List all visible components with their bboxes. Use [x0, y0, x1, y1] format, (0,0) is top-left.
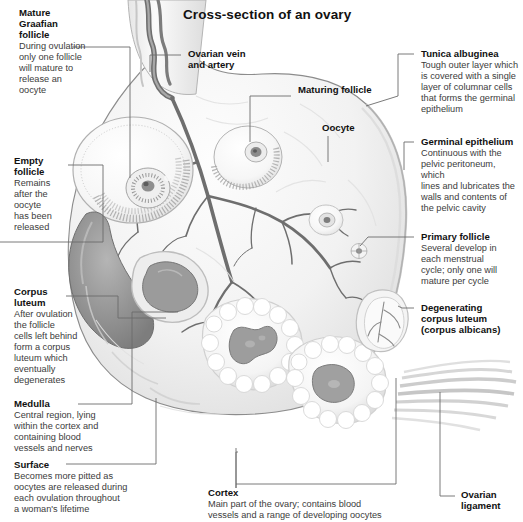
label-heading: Medulla	[14, 398, 138, 409]
label-ovarian-vein-and-artery: Ovarian vein and artery	[188, 48, 260, 70]
label-heading: Tunica albuginea	[421, 48, 521, 59]
label-heading: Corpus luteum	[14, 286, 98, 308]
label-ovarian-ligament: Ovarian ligament	[461, 489, 521, 511]
label-body: Remains after the oocyte has been releas…	[14, 178, 72, 233]
label-degenerating-corpus-luteum: Degenerating corpus luteum (corpus albic…	[421, 302, 521, 336]
label-medulla: Medulla Central region, lying within the…	[14, 398, 138, 454]
label-heading: Primary follicle	[421, 231, 517, 242]
label-heading: Maturing follicle	[298, 84, 388, 95]
label-body: Main part of the ovary; contains blood v…	[208, 499, 408, 521]
leader-tunica-albuginea	[366, 54, 414, 106]
label-heading: Ovarian vein and artery	[188, 48, 260, 70]
label-body: Continuous with the pelvic peritoneum, w…	[421, 148, 521, 215]
label-corpus-luteum: Corpus luteum After ovulation the follic…	[14, 286, 98, 387]
label-oocyte: Oocyte	[322, 122, 378, 133]
label-tunica-albuginea: Tunica albuginea Tough outer layer which…	[421, 48, 521, 115]
label-body: Becomes more pitted as oocytes are relea…	[14, 471, 166, 515]
label-body: Tough outer layer which is covered with …	[421, 60, 521, 115]
label-heading: Oocyte	[322, 122, 378, 133]
label-body: During ovulation only one follicle will …	[19, 41, 109, 96]
ovary-diagram: Cross-section of an ovary Mature Graafia…	[0, 0, 523, 522]
label-heading: Empty follicle	[14, 155, 72, 177]
label-surface: Surface Becomes more pitted as oocytes a…	[14, 459, 166, 515]
label-heading: Germinal epithelium	[421, 136, 521, 147]
label-body: After ovulation the follicle cells left …	[14, 309, 98, 387]
label-heading: Degenerating corpus luteum (corpus albic…	[421, 302, 521, 336]
label-body: Several develop in each menstrual cycle;…	[421, 243, 517, 287]
label-heading: Mature Graafian follicle	[19, 7, 109, 41]
page-title: Cross-section of an ovary	[183, 7, 351, 22]
label-heading: Surface	[14, 459, 166, 470]
label-mature-graafian-follicle: Mature Graafian follicle During ovulatio…	[19, 7, 109, 97]
label-primary-follicle: Primary follicle Several develop in each…	[421, 231, 517, 287]
leader-germinal-epithelium	[404, 142, 414, 170]
ovarian-ligament-shape	[392, 361, 516, 430]
leader-ovarian-ligament	[440, 392, 455, 496]
maturing-follicle-shape	[214, 126, 282, 188]
label-empty-follicle: Empty follicle Remains after the oocyte …	[14, 155, 72, 233]
leader-cortex	[236, 448, 238, 488]
degenerating-corpus-luteum-shape	[356, 290, 408, 352]
label-maturing-follicle: Maturing follicle	[298, 84, 388, 95]
label-heading: Cortex	[208, 487, 408, 498]
oocyte-shape	[309, 205, 343, 235]
label-cortex: Cortex Main part of the ovary; contains …	[208, 487, 408, 521]
mature-graafian-follicle-shape	[73, 117, 193, 223]
label-heading: Ovarian ligament	[461, 489, 521, 511]
label-body: Central region, lying within the cortex …	[14, 410, 138, 454]
label-germinal-epithelium: Germinal epithelium Continuous with the …	[421, 136, 521, 214]
primary-follicle-shape	[351, 244, 367, 259]
